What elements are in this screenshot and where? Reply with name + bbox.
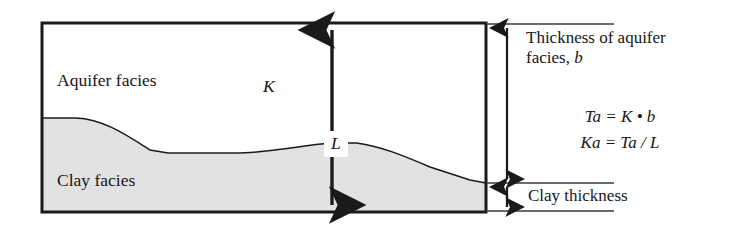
hydraulic-conductivity-label: K — [263, 76, 275, 97]
length-symbol-label: L — [324, 131, 348, 157]
aquifer-thickness-symbol: b — [574, 48, 583, 67]
equation-transmissivity: Ta = K • b — [530, 104, 710, 130]
clay-facies-label: Clay facies — [57, 170, 135, 191]
clay-thickness-annotation: Clay thickness — [528, 186, 628, 206]
equation-conductivity: Ka = Ta / L — [530, 130, 710, 156]
equation-block: Ta = K • b Ka = Ta / L — [530, 104, 710, 157]
aquifer-facies-label: Aquifer facies — [57, 70, 157, 91]
clay-facies-fill — [42, 118, 486, 212]
aquifer-thickness-annotation: Thickness of aquifer facies, b — [526, 28, 726, 68]
aquifer-thickness-line-2: facies, — [526, 48, 574, 67]
aquifer-thickness-line-1: Thickness of aquifer — [526, 28, 666, 47]
aquifer-cross-section-figure: Aquifer facies Clay facies K L Thickness… — [0, 0, 736, 235]
